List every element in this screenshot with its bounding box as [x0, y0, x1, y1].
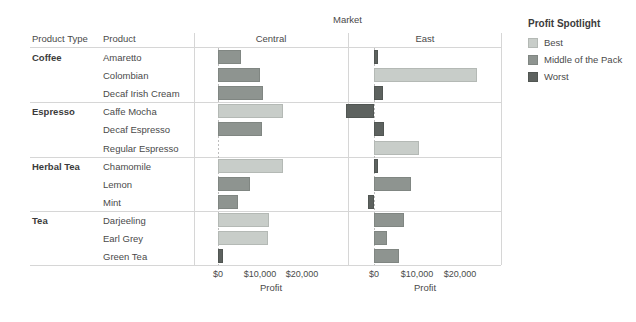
bar-mark[interactable]: [218, 195, 238, 209]
bar-mark[interactable]: [374, 231, 387, 245]
axis-tick-label: $0: [213, 269, 223, 279]
row-label-product[interactable]: Amaretto: [103, 52, 142, 63]
bar-mark[interactable]: [218, 68, 260, 82]
x-axis-central: $0$10,000$20,000 Profit: [195, 269, 347, 295]
bar-mark[interactable]: [374, 68, 477, 82]
axis-tick-label: $20,000: [286, 269, 319, 279]
bar-mark[interactable]: [218, 177, 250, 191]
legend-title: Profit Spotlight: [528, 18, 622, 29]
legend-item[interactable]: Middle of the Pack: [528, 51, 622, 68]
column-header-east[interactable]: East: [349, 33, 501, 48]
bar-mark[interactable]: [218, 50, 241, 64]
legend-swatch-icon: [528, 55, 538, 65]
legend-item[interactable]: Best: [528, 34, 622, 51]
row-label-product[interactable]: Lemon: [103, 179, 132, 190]
row-label-product[interactable]: Chamomile: [103, 161, 151, 172]
axis-title-east: Profit: [349, 282, 501, 293]
bar-mark[interactable]: [218, 104, 283, 118]
bar-mark[interactable]: [218, 159, 283, 173]
plot-pane-east[interactable]: [349, 48, 501, 265]
column-header-product-type[interactable]: Product Type: [32, 33, 88, 48]
bar-mark[interactable]: [218, 86, 263, 100]
axis-title-central: Profit: [195, 282, 347, 293]
row-group-label[interactable]: Coffee: [32, 52, 62, 63]
bar-mark[interactable]: [374, 50, 378, 64]
row-label-product[interactable]: Regular Espresso: [103, 143, 179, 154]
row-group-label[interactable]: Espresso: [32, 106, 75, 117]
column-header-central[interactable]: Central: [195, 33, 347, 48]
legend-swatch-icon: [528, 38, 538, 48]
grid-hline: [30, 265, 501, 266]
bar-mark[interactable]: [374, 159, 378, 173]
legend-item[interactable]: Worst: [528, 68, 622, 85]
axis-tick-label: $10,000: [244, 269, 277, 279]
bar-mark[interactable]: [374, 141, 419, 155]
bar-mark[interactable]: [368, 195, 374, 209]
row-label-product[interactable]: Green Tea: [103, 251, 147, 262]
legend: Profit Spotlight BestMiddle of the PackW…: [528, 18, 622, 85]
viz-root: Market Product Type Product Central East…: [0, 0, 636, 322]
row-label-product[interactable]: Decaf Espresso: [103, 124, 170, 135]
bar-mark[interactable]: [218, 249, 223, 263]
bar-mark[interactable]: [374, 249, 399, 263]
legend-item-label: Middle of the Pack: [544, 54, 622, 65]
bar-mark[interactable]: [374, 122, 384, 136]
bar-mark[interactable]: [218, 122, 262, 136]
bar-mark[interactable]: [374, 177, 411, 191]
column-header-product[interactable]: Product: [103, 33, 136, 48]
row-label-product[interactable]: Mint: [103, 197, 121, 208]
bar-mark[interactable]: [374, 213, 404, 227]
axis-tick-label: $0: [369, 269, 379, 279]
plot-pane-central[interactable]: [195, 48, 347, 265]
row-label-product[interactable]: Darjeeling: [103, 215, 146, 226]
axis-tick-label: $10,000: [401, 269, 434, 279]
market-title: Market: [195, 14, 500, 25]
row-label-product[interactable]: Colombian: [103, 70, 148, 81]
bar-mark[interactable]: [218, 213, 269, 227]
bar-mark[interactable]: [218, 231, 268, 245]
legend-swatch-icon: [528, 72, 538, 82]
row-label-product[interactable]: Caffe Mocha: [103, 106, 157, 117]
row-group-label[interactable]: Tea: [32, 215, 48, 226]
bar-mark[interactable]: [346, 104, 374, 118]
x-axis-east: $0$10,000$20,000 Profit: [349, 269, 501, 295]
legend-item-label: Worst: [544, 71, 569, 82]
legend-item-label: Best: [544, 37, 563, 48]
row-label-product[interactable]: Earl Grey: [103, 233, 143, 244]
row-label-product[interactable]: Decaf Irish Cream: [103, 88, 180, 99]
axis-tick-label: $20,000: [444, 269, 477, 279]
bar-mark[interactable]: [374, 86, 383, 100]
row-group-label[interactable]: Herbal Tea: [32, 161, 80, 172]
grid-vline: [501, 33, 502, 265]
